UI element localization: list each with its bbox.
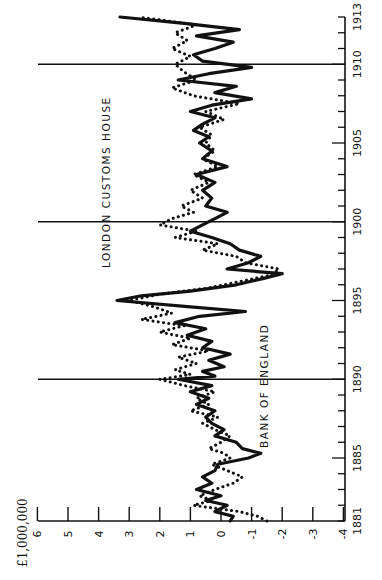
- year-tick-label: 1905: [351, 129, 364, 157]
- year-tick-label: 1913: [351, 3, 364, 31]
- year-tick-label: 1900: [351, 208, 364, 236]
- value-tick-label: 3: [123, 531, 136, 538]
- year-tick-label: 1881: [351, 507, 364, 535]
- london-customs-house-label: LONDON CUSTOMS HOUSE: [100, 96, 112, 268]
- value-tick-label: 4: [93, 531, 106, 538]
- rotated-line-chart: 6543210-1-2-3-4 188118851890189519001905…: [0, 0, 382, 580]
- value-tick-label: 1: [184, 531, 197, 538]
- year-tick-label: 1910: [351, 50, 364, 78]
- value-tick-label: -4: [337, 529, 350, 540]
- value-tick-label: -2: [276, 529, 289, 540]
- london-customs-house-dotted-line: [129, 17, 279, 521]
- year-tick-label: 1885: [351, 444, 364, 472]
- value-tick-label: 5: [62, 531, 75, 538]
- value-tick-label: -1: [246, 529, 259, 540]
- year-tick-label: 1890: [351, 365, 364, 393]
- unit-label: £1,000,000: [16, 498, 30, 567]
- value-tick-label: -3: [307, 529, 320, 540]
- value-tick-label: 2: [154, 531, 167, 538]
- year-axis-ticks: 18811885189018951900190519101913: [332, 3, 364, 535]
- year-tick-label: 1895: [351, 287, 364, 315]
- value-tick-label: 6: [31, 531, 44, 538]
- value-axis-ticks: 6543210-1-2-3-4: [31, 507, 350, 539]
- bank-of-england-label: BANK OF ENGLAND: [258, 324, 270, 448]
- value-tick-label: 0: [215, 531, 228, 538]
